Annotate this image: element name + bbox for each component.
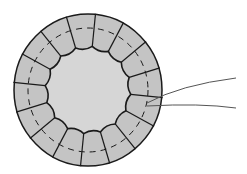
- tubule-cross-section-diagram: [0, 0, 247, 174]
